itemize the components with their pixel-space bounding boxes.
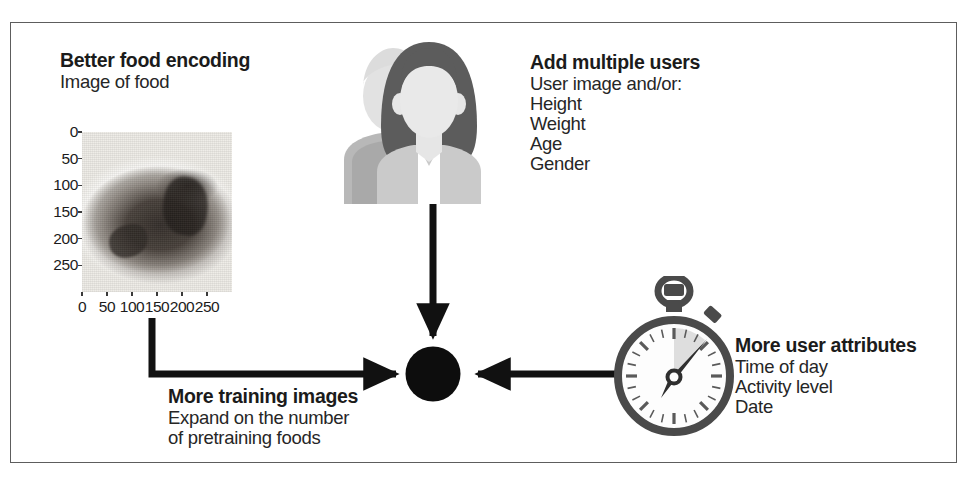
block-line: Image of food (60, 72, 250, 92)
block-line: User image and/or: (530, 74, 700, 94)
block-title: More training images (168, 386, 358, 407)
block-better-food-encoding: Better food encoding Image of food (60, 50, 250, 92)
photo-grain (82, 132, 232, 292)
y-tick-label: 250 (53, 256, 78, 274)
y-tick-mark (78, 158, 82, 159)
block-line: of pretraining foods (168, 428, 358, 448)
x-tick-mark (206, 292, 207, 296)
block-title: Better food encoding (60, 50, 250, 71)
y-tick-label: 50 (62, 150, 78, 168)
y-tick-mark (78, 238, 82, 239)
x-tick-mark (131, 292, 132, 296)
y-tick-mark (78, 265, 82, 266)
block-title: More user attributes (735, 335, 916, 356)
stopwatch-icon (612, 276, 736, 441)
y-tick-label: 0 (70, 123, 78, 141)
x-tick-mark (156, 292, 157, 296)
x-tick-label: 0 (78, 298, 86, 316)
block-more-user-attributes: More user attributes Time of day Activit… (735, 335, 916, 417)
block-add-multiple-users: Add multiple users User image and/or: He… (530, 52, 700, 174)
block-line: Time of day (735, 357, 916, 377)
food-image-plot: 050100150200250 050100150200250 (48, 128, 248, 316)
y-tick-mark (78, 211, 82, 212)
block-line: Gender (530, 154, 700, 174)
y-tick-label: 200 (53, 230, 78, 248)
block-line: Height (530, 94, 700, 114)
y-tick-label: 150 (53, 203, 78, 221)
x-tick-label: 250 (195, 298, 220, 316)
figure-root: Better food encoding Image of food 05010… (0, 0, 970, 482)
x-tick-label: 150 (145, 298, 170, 316)
x-tick-label: 100 (120, 298, 145, 316)
block-more-training-images: More training images Expand on the numbe… (168, 386, 358, 448)
block-line: Expand on the number (168, 408, 358, 428)
avatar-front-person (377, 42, 481, 204)
block-line: Date (735, 397, 916, 417)
x-tick-label: 50 (99, 298, 115, 316)
two-users-icon (330, 32, 515, 204)
x-tick-mark (81, 292, 82, 296)
block-line: Weight (530, 114, 700, 134)
x-tick-mark (181, 292, 182, 296)
block-line: Activity level (735, 377, 916, 397)
y-tick-mark (78, 185, 82, 186)
block-line: Age (530, 134, 700, 154)
x-tick-label: 200 (170, 298, 195, 316)
y-tick-mark (78, 131, 82, 132)
food-photo (82, 132, 232, 292)
x-tick-mark (106, 292, 107, 296)
y-tick-label: 100 (53, 176, 78, 194)
block-title: Add multiple users (530, 52, 700, 73)
